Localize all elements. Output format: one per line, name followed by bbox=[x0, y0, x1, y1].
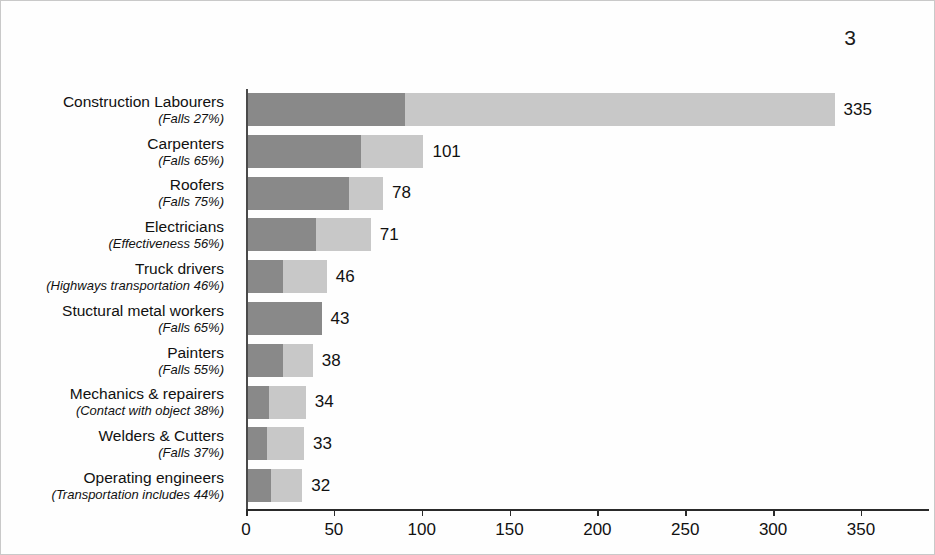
category-label-group: Carpenters(Falls 65%) bbox=[1, 131, 234, 173]
category-label-group: Mechanics & repairers(Contact with objec… bbox=[1, 382, 234, 424]
chart-row: Painters(Falls 55%)38 bbox=[1, 340, 935, 382]
bar-value-label: 46 bbox=[327, 267, 355, 287]
bar-value-label: 33 bbox=[304, 434, 332, 454]
axis-tick-label: 200 bbox=[583, 520, 611, 540]
axis-tick-label: 0 bbox=[241, 520, 250, 540]
bar-segment-primary bbox=[246, 177, 349, 210]
bar-segment-primary bbox=[246, 344, 283, 377]
axis-tick-label: 150 bbox=[495, 520, 523, 540]
category-note: (Falls 37%) bbox=[158, 445, 224, 461]
bar-value-label: 101 bbox=[423, 142, 460, 162]
chart-row: Mechanics & repairers(Contact with objec… bbox=[1, 382, 935, 424]
bar-segment-secondary bbox=[361, 135, 423, 168]
bar-segment-secondary bbox=[269, 386, 306, 419]
category-label-group: Construction Labourers(Falls 27%) bbox=[1, 89, 234, 131]
category-note: (Falls 55%) bbox=[158, 362, 224, 378]
bar-segment-secondary bbox=[271, 469, 302, 502]
category-label: Operating engineers bbox=[84, 469, 224, 487]
bar-segment-primary bbox=[246, 469, 271, 502]
bar-segment-primary bbox=[246, 302, 322, 335]
axis-tick bbox=[685, 509, 687, 516]
bar-segment-primary bbox=[246, 260, 283, 293]
stacked-bar bbox=[246, 218, 371, 251]
axis-tick bbox=[510, 509, 512, 516]
category-note: (Highways transportation 46%) bbox=[46, 278, 224, 294]
category-label-group: Truck drivers(Highways transportation 46… bbox=[1, 256, 234, 298]
category-label: Welders & Cutters bbox=[99, 427, 224, 445]
chart-row: Electricians(Effectiveness 56%)71 bbox=[1, 214, 935, 256]
x-axis: 050100150200250300350 bbox=[246, 509, 929, 510]
category-note: (Falls 75%) bbox=[158, 194, 224, 210]
bar-value-label: 335 bbox=[835, 100, 872, 120]
bar-segment-secondary bbox=[283, 344, 313, 377]
category-label: Carpenters bbox=[147, 135, 224, 153]
stacked-bar bbox=[246, 386, 306, 419]
document-page: 3 Construction Labourers(Falls 27%)335Ca… bbox=[0, 0, 935, 555]
axis-tick-label: 300 bbox=[759, 520, 787, 540]
bar-segment-primary bbox=[246, 427, 267, 460]
category-label-group: Painters(Falls 55%) bbox=[1, 340, 234, 382]
bar-segment-primary bbox=[246, 135, 361, 168]
bar-segment-secondary bbox=[349, 177, 383, 210]
stacked-bar-chart: Construction Labourers(Falls 27%)335Carp… bbox=[1, 1, 935, 555]
bar-segment-primary bbox=[246, 386, 269, 419]
bar-segment-secondary bbox=[405, 93, 835, 126]
category-label-group: Operating engineers(Transportation inclu… bbox=[1, 465, 234, 507]
stacked-bar bbox=[246, 344, 313, 377]
bar-segment-primary bbox=[246, 93, 405, 126]
chart-row: Welders & Cutters(Falls 37%)33 bbox=[1, 423, 935, 465]
category-note: (Contact with object 38%) bbox=[76, 403, 224, 419]
category-label: Electricians bbox=[145, 218, 224, 236]
category-label-group: Stuctural metal workers(Falls 65%) bbox=[1, 298, 234, 340]
chart-row: Operating engineers(Transportation inclu… bbox=[1, 465, 935, 507]
axis-tick-label: 100 bbox=[408, 520, 436, 540]
axis-tick bbox=[334, 509, 336, 516]
category-label-group: Welders & Cutters(Falls 37%) bbox=[1, 423, 234, 465]
axis-tick-label: 250 bbox=[671, 520, 699, 540]
stacked-bar bbox=[246, 469, 302, 502]
category-note: (Falls 27%) bbox=[158, 111, 224, 127]
axis-tick-label: 350 bbox=[847, 520, 875, 540]
bar-segment-secondary bbox=[267, 427, 304, 460]
category-label: Construction Labourers bbox=[63, 93, 224, 111]
bar-value-label: 43 bbox=[322, 309, 350, 329]
category-label: Mechanics & repairers bbox=[70, 385, 224, 403]
category-label: Roofers bbox=[170, 176, 224, 194]
axis-tick-label: 50 bbox=[324, 520, 343, 540]
bar-segment-secondary bbox=[316, 218, 371, 251]
bar-segment-secondary bbox=[283, 260, 327, 293]
stacked-bar bbox=[246, 93, 835, 126]
stacked-bar bbox=[246, 427, 304, 460]
stacked-bar bbox=[246, 302, 322, 335]
chart-row: Stuctural metal workers(Falls 65%)43 bbox=[1, 298, 935, 340]
category-note: (Falls 65%) bbox=[158, 320, 224, 336]
category-note: (Falls 65%) bbox=[158, 153, 224, 169]
stacked-bar bbox=[246, 260, 327, 293]
chart-row: Construction Labourers(Falls 27%)335 bbox=[1, 89, 935, 131]
chart-plot-area: Construction Labourers(Falls 27%)335Carp… bbox=[1, 89, 935, 507]
axis-tick bbox=[597, 509, 599, 516]
stacked-bar bbox=[246, 177, 383, 210]
bar-value-label: 34 bbox=[306, 392, 334, 412]
chart-row: Carpenters(Falls 65%)101 bbox=[1, 131, 935, 173]
stacked-bar bbox=[246, 135, 423, 168]
category-note: (Effectiveness 56%) bbox=[108, 236, 224, 252]
chart-row: Roofers(Falls 75%)78 bbox=[1, 173, 935, 215]
axis-tick bbox=[422, 509, 424, 516]
bar-value-label: 78 bbox=[383, 183, 411, 203]
y-axis-line bbox=[246, 89, 248, 509]
axis-tick bbox=[773, 509, 775, 516]
axis-tick bbox=[861, 509, 863, 516]
axis-tick bbox=[246, 509, 248, 516]
category-label-group: Roofers(Falls 75%) bbox=[1, 173, 234, 215]
bar-value-label: 38 bbox=[313, 351, 341, 371]
category-label: Truck drivers bbox=[135, 260, 224, 278]
category-label-group: Electricians(Effectiveness 56%) bbox=[1, 214, 234, 256]
bar-segment-primary bbox=[246, 218, 316, 251]
x-axis-line bbox=[246, 509, 929, 511]
category-label: Stuctural metal workers bbox=[62, 302, 224, 320]
bar-value-label: 32 bbox=[302, 476, 330, 496]
bar-value-label: 71 bbox=[371, 225, 399, 245]
category-label: Painters bbox=[167, 344, 224, 362]
category-note: (Transportation includes 44%) bbox=[52, 487, 224, 503]
